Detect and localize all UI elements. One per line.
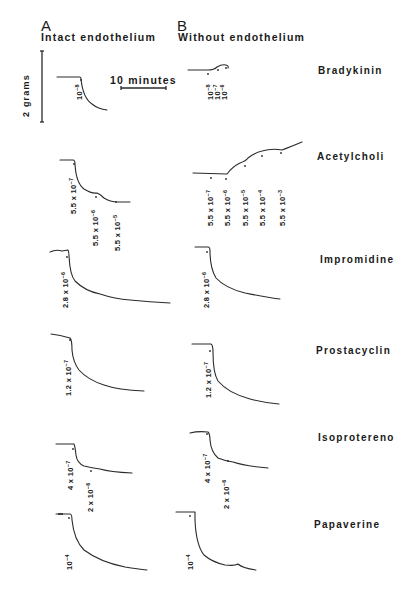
dose-exponent: −3 — [277, 190, 283, 197]
dose-base: 10 — [186, 561, 195, 570]
scale-bar-vertical — [40, 51, 44, 122]
dose-exponent: −4 — [257, 190, 263, 197]
dose-label-isoproterenol-a-1: 4 x 10−7 — [66, 460, 75, 490]
dose-exponent: −7 — [202, 453, 208, 460]
dose-label-acetylcholine-a-3: 5.5 x 10−5 — [113, 215, 122, 251]
dose-base: 1.2 x 10 — [64, 366, 73, 396]
dose-exponent: −7 — [203, 362, 209, 369]
dose-label-acetylcholine-b-5: 5.5 x 10−3 — [278, 190, 287, 226]
dose-base: 4 x 10 — [66, 467, 75, 490]
dose-label-isoproterenol-b-1: 4 x 10−7 — [203, 453, 212, 483]
dose-base: 5.5 x 10 — [113, 221, 122, 251]
trace-bradykinin-b — [188, 65, 228, 75]
dose-base: 2 x 10 — [222, 486, 231, 509]
dose-label-acetylcholine-b-3: 5.5 x 10−5 — [241, 190, 250, 226]
dose-base: 2 x 10 — [86, 489, 95, 512]
dose-label-papaverine-b-1: 10−4 — [186, 554, 195, 570]
dose-label-papaverine-a-1: 10−4 — [65, 554, 74, 570]
dose-exponent: −5 — [112, 215, 118, 222]
dose-exponent: −5 — [240, 190, 246, 197]
dose-label-impromidine-a-1: 2.8 x 10−6 — [61, 272, 70, 308]
dose-exponent: −6 — [85, 482, 91, 489]
dose-base: 5.5 x 10 — [258, 196, 267, 226]
dose-exponent: −4 — [185, 554, 191, 561]
dose-exponent: −4 — [64, 554, 70, 561]
dose-base: 10 — [220, 91, 229, 100]
dose-exponent: −8 — [205, 84, 211, 91]
dose-base: 5.5 x 10 — [206, 196, 215, 226]
dose-exponent: −8 — [74, 84, 80, 91]
dose-label-bradykinin-a-1: 10−8 — [75, 84, 84, 100]
dose-label-acetylcholine-b-2: 5.5 x 10−6 — [223, 190, 232, 226]
dose-exponent: −6 — [222, 190, 228, 197]
dose-exponent: −6 — [219, 84, 225, 91]
dose-base: 1.2 x 10 — [204, 368, 213, 398]
dose-exponent: −7 — [63, 360, 69, 367]
dose-label-acetylcholine-b-1: 5.5 x 10−7 — [206, 190, 215, 226]
dose-base: 4 x 10 — [203, 460, 212, 483]
dose-label-acetylcholine-a-1: 5.5 x 10−7 — [69, 178, 78, 214]
dose-base: 5.5 x 10 — [91, 216, 100, 246]
dose-label-acetylcholine-a-2: 5.5 x 10−6 — [91, 210, 100, 246]
dose-label-impromidine-b-1: 2.8 x 10−6 — [202, 272, 211, 308]
dose-base: 5.5 x 10 — [241, 196, 250, 226]
dose-label-isoproterenol-a-2: 2 x 10−6 — [86, 482, 95, 512]
dose-label-prostacyclin-b-1: 1.2 x 10−7 — [204, 362, 213, 398]
dose-exponent: −7 — [68, 178, 74, 185]
dose-label-prostacyclin-a-1: 1.2 x 10−7 — [64, 360, 73, 396]
dose-base: 5.5 x 10 — [223, 196, 232, 226]
dose-exponent: −6 — [221, 479, 227, 486]
dose-base: 5.5 x 10 — [278, 196, 287, 226]
dose-base: 10 — [65, 561, 74, 570]
dose-base: 2.8 x 10 — [61, 278, 70, 308]
dose-label-bradykinin-b-3: 10−6 — [220, 84, 229, 100]
dose-base: 10 — [75, 91, 84, 100]
dose-exponent: −6 — [90, 210, 96, 217]
dose-label-isoproterenol-b-2: 2 x 10−6 — [222, 479, 231, 509]
dose-exponent: −7 — [205, 190, 211, 197]
trace-acetylcholine-b — [193, 142, 302, 180]
dose-exponent: −7 — [212, 84, 218, 91]
dose-label-acetylcholine-b-4: 5.5 x 10−4 — [258, 190, 267, 226]
scale-bar-horizontal — [121, 86, 166, 90]
dose-exponent: −7 — [65, 460, 71, 467]
dose-base: 5.5 x 10 — [69, 184, 78, 214]
dose-base: 2.8 x 10 — [202, 278, 211, 308]
dose-exponent: −6 — [60, 272, 66, 279]
dose-exponent: −6 — [201, 272, 207, 279]
trace-isoproterenol-b — [190, 432, 268, 468]
